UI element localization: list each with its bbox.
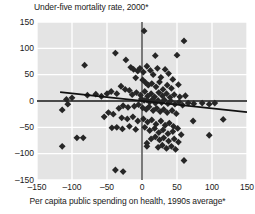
data-point-marker bbox=[130, 113, 137, 120]
data-point-marker bbox=[59, 107, 66, 114]
data-point-marker bbox=[181, 157, 188, 164]
y-axis-tick-label: –100 bbox=[1, 149, 34, 158]
data-point-marker bbox=[81, 62, 88, 69]
data-point-marker bbox=[220, 116, 227, 123]
data-point-marker bbox=[80, 134, 87, 141]
data-point-marker bbox=[123, 57, 130, 64]
data-point-marker bbox=[120, 168, 127, 175]
plot-area bbox=[37, 22, 247, 180]
data-point-marker bbox=[119, 126, 126, 133]
data-point-marker bbox=[152, 52, 159, 59]
y-axis-tick-label: 150 bbox=[1, 18, 34, 27]
data-point-marker bbox=[134, 118, 141, 125]
data-point-marker bbox=[112, 167, 119, 174]
data-point-marker bbox=[69, 94, 76, 101]
x-axis-tick-label: –150 bbox=[28, 182, 47, 192]
data-point-marker bbox=[59, 143, 66, 150]
data-point-marker bbox=[124, 116, 131, 123]
x-axis-tick-label: 0 bbox=[140, 182, 145, 192]
y-axis-tick-label: 0 bbox=[1, 97, 34, 106]
x-axis-tick-label: 150 bbox=[240, 182, 254, 192]
x-axis-label: Per capita public spending on health, 19… bbox=[0, 196, 255, 206]
x-axis-tick-label: 50 bbox=[172, 182, 181, 192]
data-point-marker bbox=[174, 52, 181, 59]
data-point-marker bbox=[175, 81, 182, 88]
x-axis-tick-label: –50 bbox=[100, 182, 114, 192]
x-axis-tick-label: 100 bbox=[205, 182, 219, 192]
data-point-marker bbox=[74, 134, 81, 141]
y-axis-tick-label: 50 bbox=[1, 70, 34, 79]
data-point-marker bbox=[181, 38, 188, 45]
data-point-marker bbox=[169, 76, 176, 83]
data-point-marker bbox=[113, 90, 120, 97]
data-point-marker bbox=[113, 124, 120, 131]
chart-title: Under-five mortality rate, 2000* bbox=[34, 2, 148, 12]
data-point-marker bbox=[178, 131, 185, 138]
x-axis-tick-label: –100 bbox=[63, 182, 82, 192]
data-point-marker bbox=[182, 92, 189, 99]
data-point-marker bbox=[190, 118, 197, 125]
y-axis-tick-label: 100 bbox=[1, 44, 34, 53]
data-point-marker bbox=[112, 50, 119, 57]
plot-svg bbox=[37, 22, 247, 180]
scatter-chart-figure: Under-five mortality rate, 2000* 1501005… bbox=[0, 0, 255, 214]
y-axis-tick-label: –50 bbox=[1, 123, 34, 132]
data-point-marker bbox=[154, 65, 161, 72]
data-point-marker bbox=[126, 123, 133, 130]
x-axis-tick-labels: –150–100–50050100150 bbox=[0, 182, 255, 194]
data-point-marker bbox=[118, 114, 125, 121]
data-point-marker bbox=[132, 74, 139, 81]
